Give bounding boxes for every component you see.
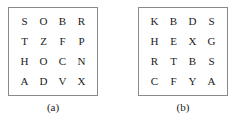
grid-cell: C	[145, 76, 164, 87]
letter-grid-a: S O B R T Z F P H O C N A D V X	[8, 7, 98, 96]
grid-cell: B	[53, 16, 72, 27]
panel-a: S O B R T Z F P H O C N A D V X	[0, 0, 113, 127]
grid-cell: S	[202, 56, 221, 67]
grid-cell: Y	[183, 76, 202, 87]
grid-cell: X	[183, 36, 202, 47]
grid-cell: T	[164, 56, 183, 67]
grid-row: R T B S	[145, 52, 221, 72]
panel-caption-b: (b)	[138, 101, 228, 114]
grid-cell: D	[34, 76, 53, 87]
grid-cell: N	[72, 56, 91, 67]
grid-cell: V	[53, 76, 72, 87]
letter-grid-b: K B D S H E X G R T B S C F Y A	[138, 7, 228, 96]
grid-cell: K	[145, 16, 164, 27]
grid-cell: S	[15, 16, 34, 27]
grid-cell: A	[202, 76, 221, 87]
grid-cell: X	[72, 76, 91, 87]
grid-cell: H	[15, 56, 34, 67]
grid-cell: S	[202, 16, 221, 27]
grid-cell: B	[183, 56, 202, 67]
panel-b: K B D S H E X G R T B S C F Y A	[130, 0, 243, 127]
grid-cell: G	[202, 36, 221, 47]
grid-cell: E	[164, 36, 183, 47]
grid-cell: R	[72, 16, 91, 27]
panel-caption-a: (a)	[8, 101, 98, 114]
grid-cell: F	[164, 76, 183, 87]
grid-cell: P	[72, 36, 91, 47]
grid-row: S O B R	[15, 11, 91, 31]
grid-cell: H	[145, 36, 164, 47]
grid-cell: F	[53, 36, 72, 47]
grid-cell: O	[34, 56, 53, 67]
grid-cell: O	[34, 16, 53, 27]
grid-cell: T	[15, 36, 34, 47]
grid-cell: D	[183, 16, 202, 27]
grid-cell: C	[53, 56, 72, 67]
grid-row: T Z F P	[15, 31, 91, 51]
grid-cell: Z	[34, 36, 53, 47]
grid-row: K B D S	[145, 11, 221, 31]
letter-matrix-figure: S O B R T Z F P H O C N A D V X	[0, 0, 243, 127]
grid-cell: A	[15, 76, 34, 87]
grid-cell: B	[164, 16, 183, 27]
grid-row: H O C N	[15, 52, 91, 72]
grid-row: A D V X	[15, 72, 91, 92]
grid-row: H E X G	[145, 31, 221, 51]
grid-row: C F Y A	[145, 72, 221, 92]
grid-cell: R	[145, 56, 164, 67]
